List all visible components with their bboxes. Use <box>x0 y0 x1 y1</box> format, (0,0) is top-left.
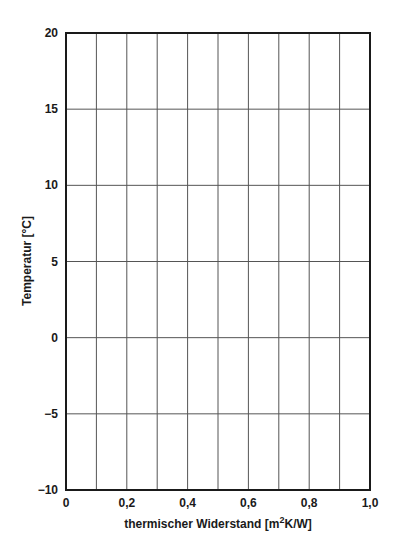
y-tick-label: −10 <box>38 483 59 497</box>
x-tick-label: 1,0 <box>362 496 379 510</box>
y-tick-label: 5 <box>51 255 58 269</box>
y-tick-label: 15 <box>45 102 59 116</box>
y-tick-label: 20 <box>45 26 59 40</box>
x-axis-label: thermischer Widerstand [m2K/W] <box>124 515 312 531</box>
y-tick-label: −5 <box>44 407 58 421</box>
y-axis-label: Temperatur [°C] <box>20 216 34 306</box>
y-tick-label: 0 <box>51 331 58 345</box>
x-tick-label: 0,6 <box>240 496 257 510</box>
x-tick-label: 0,8 <box>301 496 318 510</box>
y-tick-label: 10 <box>45 178 59 192</box>
x-tick-label: 0,4 <box>179 496 196 510</box>
chart: 00,20,40,60,81,0 −10−505101520 thermisch… <box>0 0 397 560</box>
y-tick-labels: −10−505101520 <box>38 26 59 497</box>
x-tick-label: 0,2 <box>118 496 135 510</box>
x-tick-labels: 00,20,40,60,81,0 <box>63 496 379 510</box>
x-tick-label: 0 <box>63 496 70 510</box>
